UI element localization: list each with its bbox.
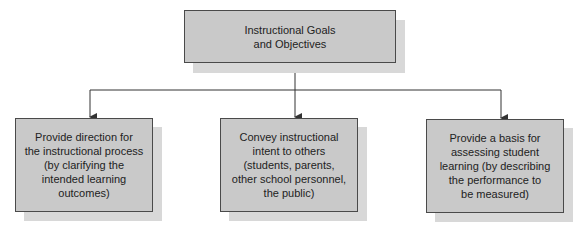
root-node: Instructional Goals and Objectives <box>184 10 396 63</box>
root-node-label: Instructional Goals and Objectives <box>244 23 335 51</box>
child-node-convey: Convey instructional intent to others (s… <box>220 118 358 212</box>
child-node-label: Convey instructional intent to others (s… <box>232 130 346 200</box>
child-node-assessment: Provide a basis for assessing student le… <box>426 119 564 213</box>
child-node-label: Provide direction for the instructional … <box>25 130 144 200</box>
child-node-label: Provide a basis for assessing student le… <box>440 131 551 201</box>
child-node-direction: Provide direction for the instructional … <box>15 118 153 212</box>
